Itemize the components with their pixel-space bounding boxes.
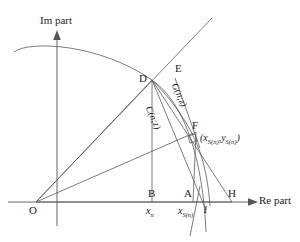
tick-xsn-subscript: S(n) <box>182 211 193 218</box>
tick-label-xsn: xS(n) <box>178 206 193 219</box>
imaginary-axis-label: Im part <box>40 15 72 26</box>
segment-o-f <box>36 132 196 202</box>
point-label-h: H <box>228 188 236 199</box>
segment-o-d <box>36 80 152 202</box>
point-label-a: A <box>184 188 192 199</box>
coord-close-paren: ) <box>236 132 239 143</box>
point-label-f: F <box>192 120 198 131</box>
point-label-e: E <box>175 63 182 74</box>
real-axis-label: Re part <box>259 195 291 206</box>
coord-x-subscript: S(n) <box>208 138 219 145</box>
imaginary-axis <box>53 30 61 226</box>
figure-root: Im part Re part O D E F B A H xn xS(n) 1… <box>0 0 300 242</box>
f-coordinate-annotation: (xS(n),yS(n)) <box>200 133 240 146</box>
point-label-d: D <box>139 73 147 84</box>
tick-label-unit: 1 <box>203 205 208 215</box>
tick-xn-subscript: n <box>150 211 153 218</box>
coord-y-subscript: S(n) <box>226 138 237 145</box>
point-label-origin: O <box>29 205 37 216</box>
tick-label-xn: xn <box>146 206 154 219</box>
point-label-b: B <box>148 188 155 199</box>
